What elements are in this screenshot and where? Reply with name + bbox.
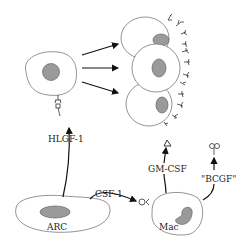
- hlgf-label: HLGF-1: [48, 134, 84, 144]
- mac-cell: Mac: [152, 192, 203, 235]
- open-triangle-icon: [164, 140, 171, 146]
- bcgf-receptor-icon: [210, 144, 215, 149]
- differentiation-arrows: [82, 44, 118, 93]
- diagram-canvas: ARC HLGF-1 CSF-1 Mac GM-CSF "BCGF": [0, 0, 242, 245]
- gmcsf-label: GM-CSF: [148, 164, 187, 174]
- hlgf-receptor-icon: [55, 95, 61, 116]
- differentiated-cells: [121, 17, 180, 126]
- arc-label: ARC: [46, 222, 67, 232]
- bcgf-label: "BCGF": [201, 174, 236, 184]
- mac-label: Mac: [159, 222, 179, 232]
- bcgf-arrow: [203, 144, 220, 201]
- precursor-cell: [25, 52, 76, 96]
- csf-label: CSF-1: [95, 189, 123, 199]
- arc-cell: ARC: [16, 195, 110, 232]
- precursor-nucleus: [43, 64, 60, 81]
